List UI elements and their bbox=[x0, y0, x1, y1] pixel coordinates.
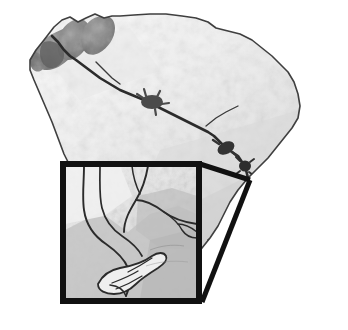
inset-panel bbox=[63, 164, 199, 301]
upper-reservoir bbox=[141, 95, 163, 109]
map-canvas bbox=[0, 0, 348, 330]
map-figure: Grayscale map of South Carolina showing … bbox=[0, 0, 348, 330]
